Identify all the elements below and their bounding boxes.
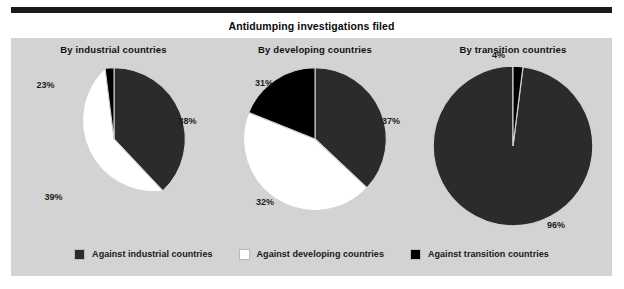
legend-label-industrial: Against industrial countries	[92, 249, 212, 259]
figure-title: Antidumping investigations filed	[11, 16, 612, 36]
pie-title-developing: By developing countries	[216, 44, 414, 55]
legend-item-developing: Against developing countries	[239, 249, 384, 260]
chart-legend: Against industrial countries Against dev…	[11, 241, 612, 267]
pie-label-developing-37: 37%	[382, 116, 400, 126]
pie-label-transition-4: 4%	[492, 50, 505, 60]
pie-title-transition: By transition countries	[414, 44, 612, 55]
pie-svg-transition	[429, 62, 597, 230]
pie-chart-industrial: By industrial countries 38% 39% 23%	[11, 38, 216, 238]
pie-label-industrial-23: 23%	[37, 80, 55, 90]
legend-item-industrial: Against industrial countries	[74, 249, 212, 260]
pie-graphic-developing: 37% 32% 31%	[240, 64, 390, 218]
legend-swatch-icon-developing	[239, 249, 250, 260]
figure-container: Antidumping investigations filed By indu…	[0, 0, 624, 289]
pie-label-developing-31: 31%	[255, 78, 273, 88]
pie-chart-transition: By transition countries 4% 96%	[414, 38, 612, 238]
pie-label-industrial-38: 38%	[179, 116, 197, 126]
legend-item-transition: Against transition countries	[410, 249, 549, 260]
pie-graphic-industrial: 38% 39% 23%	[39, 64, 189, 218]
header-rule	[11, 7, 612, 13]
pie-title-industrial: By industrial countries	[11, 44, 216, 55]
legend-swatch-icon-transition	[410, 249, 421, 260]
pie-label-industrial-39: 39%	[45, 192, 63, 202]
pie-label-developing-32: 32%	[256, 197, 274, 207]
legend-label-transition: Against transition countries	[428, 249, 549, 259]
pie-label-transition-96: 96%	[547, 220, 565, 230]
pie-chart-developing: By developing countries 37% 32% 31%	[216, 38, 414, 238]
legend-swatch-icon-industrial	[74, 249, 85, 260]
pie-graphic-transition: 4% 96%	[429, 62, 597, 234]
chart-panel: By industrial countries 38% 39% 23% By d…	[11, 38, 612, 276]
legend-label-developing: Against developing countries	[257, 249, 384, 259]
